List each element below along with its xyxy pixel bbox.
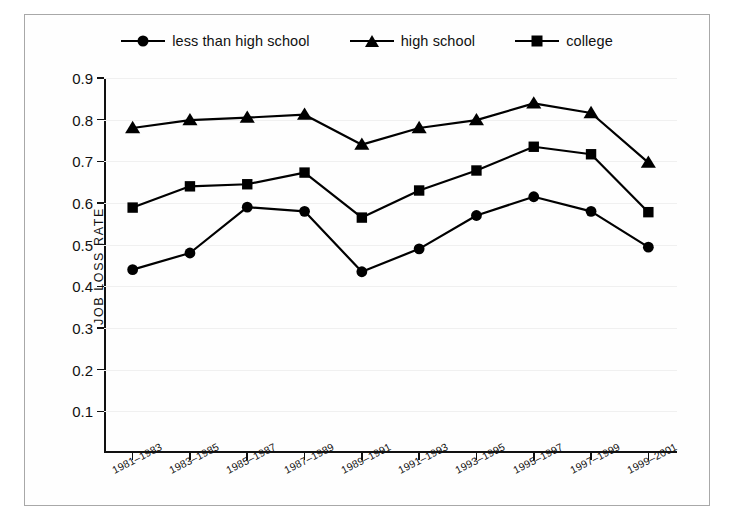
y-axis-tick-label: 0.4: [72, 278, 93, 295]
data-point: [185, 248, 196, 259]
y-axis-tick: [97, 327, 104, 329]
y-axis-tick-label: 0.7: [72, 153, 93, 170]
data-point: [526, 96, 541, 108]
legend-item-less-than-high-school[interactable]: less than high school: [121, 33, 310, 49]
chart-legend: less than high school high school colleg…: [25, 33, 709, 49]
legend-marker-square-icon: [515, 34, 559, 48]
data-point: [414, 185, 424, 195]
data-point: [414, 243, 425, 254]
data-point: [643, 242, 654, 253]
y-axis-tick: [97, 202, 104, 204]
legend-marker-circle-icon: [121, 34, 165, 48]
y-axis-tick-label: 0.3: [72, 320, 93, 337]
data-point: [356, 266, 367, 277]
data-point: [299, 206, 310, 217]
data-point: [471, 210, 482, 221]
y-axis-tick-label: 0.1: [72, 403, 93, 420]
y-axis-tick: [97, 161, 104, 163]
data-point: [586, 206, 597, 217]
series-line: [133, 103, 649, 162]
data-point: [242, 179, 252, 189]
data-point: [242, 202, 253, 213]
series-layer: [104, 78, 677, 453]
y-axis-tick-label: 0.5: [72, 236, 93, 253]
legend-label-less-than-high-school: less than high school: [172, 33, 310, 49]
series-line: [133, 197, 649, 272]
data-point: [299, 167, 309, 177]
data-point: [297, 107, 312, 119]
y-axis-tick-label: 0.9: [72, 70, 93, 87]
legend-marker-triangle-icon: [350, 34, 394, 48]
series-college: [127, 142, 653, 223]
data-point: [357, 212, 367, 222]
plot-area: JOB LOSS RATE 0.10.20.30.40.50.60.70.80.…: [104, 78, 677, 453]
data-point: [127, 202, 137, 212]
data-point: [643, 207, 653, 217]
y-axis-tick-label: 0.6: [72, 195, 93, 212]
y-axis-tick: [97, 119, 104, 121]
y-axis-tick-label: 0.8: [72, 111, 93, 128]
y-axis-tick: [97, 369, 104, 371]
data-point: [471, 165, 481, 175]
chart-figure: less than high school high school colleg…: [24, 14, 710, 506]
legend-label-college: college: [566, 33, 613, 49]
data-point: [185, 181, 195, 191]
legend-item-high-school[interactable]: high school: [350, 33, 475, 49]
series-high-school: [125, 96, 656, 168]
data-point: [586, 149, 596, 159]
data-point: [528, 191, 539, 202]
y-axis-tick: [97, 411, 104, 413]
y-axis-tick-label: 0.2: [72, 361, 93, 378]
y-axis-tick: [97, 77, 104, 79]
legend-label-high-school: high school: [401, 33, 475, 49]
legend-item-college[interactable]: college: [515, 33, 613, 49]
data-point: [127, 264, 138, 275]
y-axis-tick: [97, 286, 104, 288]
data-point: [529, 142, 539, 152]
y-axis-tick: [97, 244, 104, 246]
